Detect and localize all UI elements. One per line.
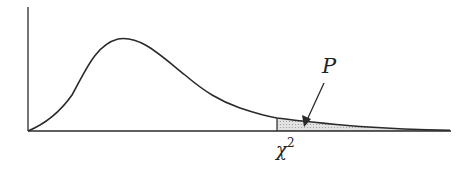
chi-square-label: χ2 (276, 138, 295, 160)
p-arrow-shaft (307, 83, 324, 120)
p-label: P (322, 54, 336, 78)
chi-exponent: 2 (287, 136, 295, 150)
chi-square-diagram (0, 0, 464, 169)
chi-symbol: χ (276, 139, 287, 160)
density-curve (28, 38, 450, 131)
